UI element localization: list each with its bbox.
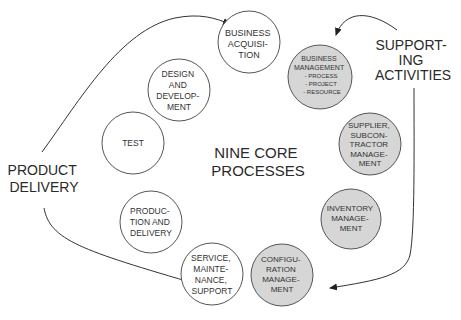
process-service-maintenance-support[interactable]: SERVICE, MAINTE- NANCE, SUPPORT — [181, 243, 243, 305]
arrow-supporting-to-business-management — [336, 16, 397, 35]
process-inventory-management[interactable]: INVENTORY MANAGE- MENT — [321, 189, 381, 249]
process-test[interactable]: TEST — [102, 112, 164, 174]
product-delivery-label: PRODUCT DELIVERY — [8, 162, 81, 195]
process-business-management[interactable]: BUSINESS MANAGEMENT - PROCESS - PROJECT … — [288, 45, 352, 109]
svg-text:NINE CORE PROCESSES: NINE CORE PROCESSES — [211, 144, 304, 179]
process-design-and-development[interactable]: DESIGN AND DEVELOP- MENT — [148, 59, 210, 121]
process-production-and-delivery[interactable]: PRODUC- TION AND DELIVERY — [120, 191, 182, 253]
supporting-activities-label: SUPPORT- ING ACTIVITIES — [375, 37, 451, 83]
nine-core-processes-diagram: BUSINESS ACQUISI- TION DESIGN AND DEVELO… — [0, 0, 461, 320]
svg-text:SERVICE, MAINTE- N: SERVICE, MAINTE- NANCE, SUPPORT — [191, 253, 233, 296]
process-configuration-management[interactable]: CONFIGU- RATION MANAGE- MENT — [251, 244, 313, 306]
center-title: NINE CORE PROCESSES — [211, 144, 304, 179]
svg-text:SUPPORT- ING ACTIV: SUPPORT- ING ACTIVITIES — [375, 37, 451, 83]
svg-text:PRODUCT DELIVERY: PRODUCT DELIVERY — [8, 162, 81, 195]
svg-text:PRODUC- TION AND D: PRODUC- TION AND DELIVERY — [130, 206, 173, 238]
process-business-acquisition[interactable]: BUSINESS ACQUISI- TION — [218, 11, 280, 73]
process-supplier-subcontractor-management[interactable]: SUPPLIER, SUBCON- TRACTOR MANAGE- MENT — [339, 113, 401, 175]
svg-text:TEST: TEST — [122, 138, 144, 148]
